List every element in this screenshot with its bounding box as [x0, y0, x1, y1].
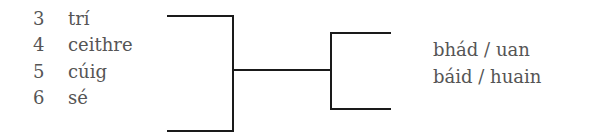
left-bracket-vertical	[232, 15, 234, 132]
right-bracket-bottom	[330, 108, 391, 110]
item-word: ceithre	[68, 35, 133, 55]
list-item: bhád / uan	[433, 40, 530, 60]
right-bracket-vertical	[330, 32, 332, 110]
item-number: 5	[33, 62, 44, 82]
left-bracket-top	[167, 15, 234, 17]
connector-line	[233, 69, 332, 71]
item-number: 6	[33, 88, 44, 108]
item-word: sé	[68, 88, 88, 108]
item-number: 3	[33, 9, 44, 29]
item-word: trí	[68, 9, 90, 29]
right-bracket-top	[330, 32, 391, 34]
left-bracket-bottom	[167, 130, 234, 132]
item-word: cúig	[68, 62, 107, 82]
list-item: báid / huain	[433, 67, 541, 87]
item-number: 4	[33, 35, 44, 55]
